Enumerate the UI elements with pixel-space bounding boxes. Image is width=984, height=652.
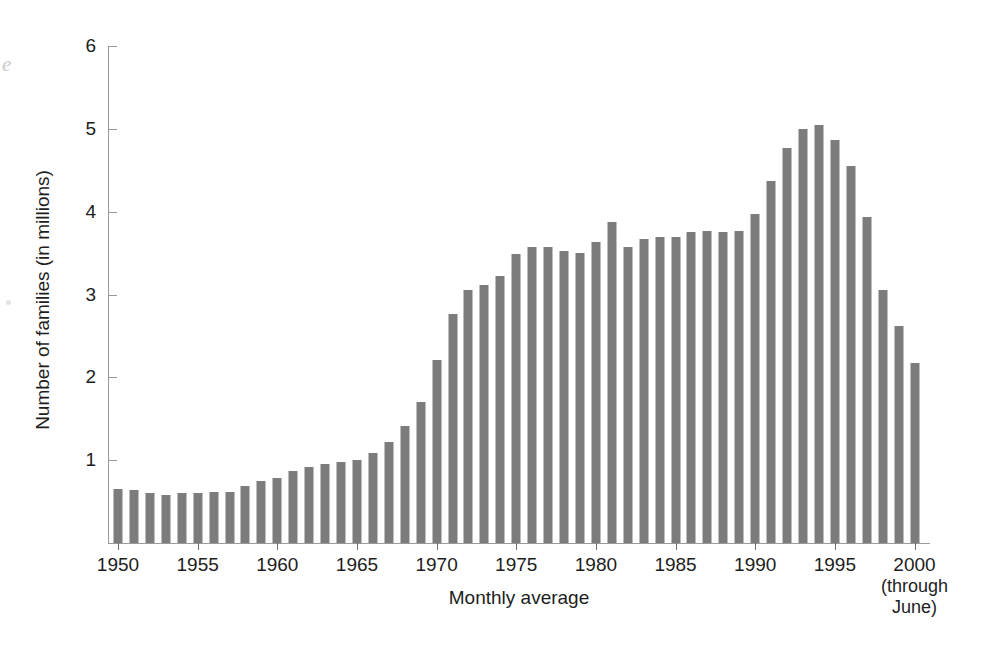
bar: [145, 493, 154, 543]
x-tick-mark: [676, 543, 677, 550]
y-tick-label: 3: [85, 284, 96, 306]
y-tick-label: 5: [85, 118, 96, 140]
y-tick-label: 1: [85, 449, 96, 471]
y-tick: 4: [108, 212, 117, 213]
bar: [496, 276, 505, 543]
plot-area: 654321 195019551960196519701975198019851…: [108, 46, 930, 543]
bar: [591, 242, 600, 544]
x-tick-label: 1980: [575, 554, 617, 576]
bar: [767, 181, 776, 543]
bar: [623, 247, 632, 543]
y-tick-mark: [109, 377, 117, 378]
y-tick: 6: [108, 46, 117, 47]
x-tick-label: 1985: [654, 554, 696, 576]
x-axis-title: Monthly average: [108, 587, 930, 609]
x-tick-mark: [516, 543, 517, 550]
x-tick-mark: [118, 543, 119, 550]
bar: [671, 237, 680, 543]
x-tick-label: 1960: [256, 554, 298, 576]
x-tick-mark: [198, 543, 199, 550]
x-tick-mark: [437, 543, 438, 550]
x-tick-label: 1995: [814, 554, 856, 576]
bar: [830, 140, 839, 543]
bar: [639, 239, 648, 543]
y-tick-mark: [109, 460, 117, 461]
bar: [846, 166, 855, 543]
y-tick-mark: [109, 295, 117, 296]
bar: [177, 493, 186, 543]
bar: [241, 486, 250, 543]
bar: [719, 232, 728, 543]
bar: [783, 148, 792, 543]
bar: [560, 251, 569, 543]
x-tick-label: 1955: [177, 554, 219, 576]
bar: [575, 253, 584, 543]
y-tick: 1: [108, 460, 117, 461]
bar: [687, 232, 696, 543]
bar: [703, 231, 712, 543]
bar: [289, 471, 298, 543]
bar: [894, 326, 903, 543]
bar: [607, 222, 616, 543]
y-tick-label: 4: [85, 201, 96, 223]
bar: [273, 478, 282, 543]
x-axis-line: [108, 543, 930, 544]
x-tick-label: 1970: [415, 554, 457, 576]
bar: [480, 285, 489, 543]
bar: [129, 490, 138, 543]
bar: [862, 217, 871, 543]
x-tick-label: 1950: [97, 554, 139, 576]
bar: [257, 481, 266, 543]
bar: [432, 360, 441, 543]
page-margin-speck: [6, 300, 11, 305]
bar: [305, 467, 314, 543]
bar: [814, 125, 823, 543]
bar: [209, 492, 218, 543]
x-tick-mark: [357, 543, 358, 550]
bar: [655, 237, 664, 543]
bar: [161, 495, 170, 543]
bar: [464, 290, 473, 543]
bar: [225, 492, 234, 543]
bar: [193, 493, 202, 543]
bar: [878, 290, 887, 543]
page-margin-artifact: e: [2, 52, 11, 77]
bar: [416, 402, 425, 543]
bar: [910, 363, 919, 543]
bar: [544, 247, 553, 543]
y-axis-title: Number of families (in millions): [30, 150, 56, 450]
bar: [400, 426, 409, 543]
bar: [321, 464, 330, 543]
bar: [448, 314, 457, 543]
y-tick-mark: [109, 129, 117, 130]
bar: [799, 129, 808, 543]
y-tick-label: 2: [85, 366, 96, 388]
bar: [114, 489, 123, 543]
x-tick-mark: [915, 543, 916, 550]
x-tick-label: 1975: [495, 554, 537, 576]
bar: [528, 247, 537, 543]
x-tick-label: 1990: [734, 554, 776, 576]
x-tick-mark: [596, 543, 597, 550]
x-tick-label-year: 2000: [893, 554, 935, 575]
y-tick: 5: [108, 129, 117, 130]
x-tick-mark: [277, 543, 278, 550]
y-tick-mark: [109, 46, 117, 47]
y-tick: 3: [108, 295, 117, 296]
bar: [384, 442, 393, 543]
y-tick-label: 6: [85, 35, 96, 57]
bar: [368, 453, 377, 543]
bar: [512, 254, 521, 543]
chart-figure: e Number of families (in millions) 65432…: [0, 0, 984, 652]
y-axis-title-label: Number of families (in millions): [32, 170, 54, 430]
y-tick-mark: [109, 212, 117, 213]
bar: [337, 462, 346, 543]
x-tick-mark: [835, 543, 836, 550]
y-tick: 2: [108, 377, 117, 378]
x-tick-label: 1965: [336, 554, 378, 576]
bar: [352, 460, 361, 543]
bar: [751, 214, 760, 543]
bar: [735, 231, 744, 543]
x-tick-mark: [755, 543, 756, 550]
